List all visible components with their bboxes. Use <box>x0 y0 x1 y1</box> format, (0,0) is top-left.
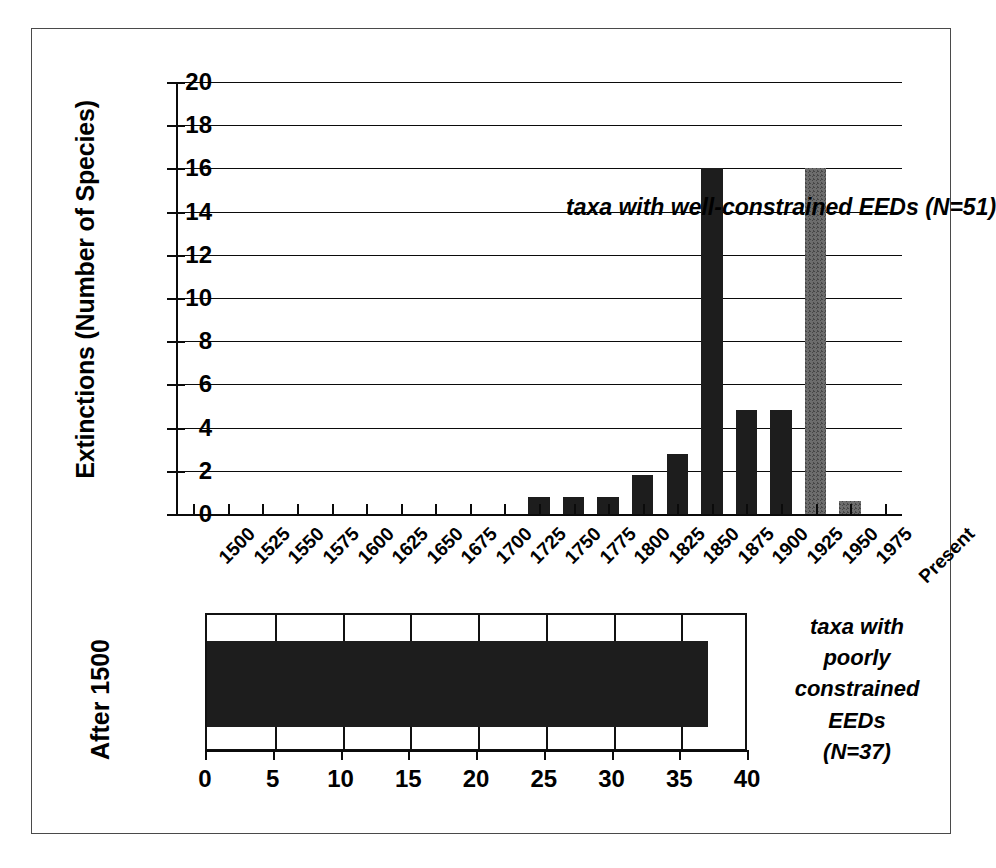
top-y-tick-label: 16 <box>132 156 212 180</box>
top-y-tick-label: 4 <box>132 416 212 440</box>
top-x-tick <box>332 504 334 515</box>
top-bar <box>736 410 757 514</box>
bottom-x-tick <box>679 750 681 760</box>
top-gridline <box>176 471 902 472</box>
top-gridline <box>176 168 902 169</box>
top-x-tick <box>816 504 818 515</box>
top-chart-annotation: taxa with well-constrained EEDs (N=51) <box>566 194 996 221</box>
top-x-tick-label: 1900 <box>768 523 813 568</box>
bottom-x-tick <box>205 750 207 760</box>
top-y-tick-label: 6 <box>132 372 212 396</box>
top-x-tick <box>746 504 748 515</box>
top-y-tick-label: 0 <box>132 502 212 526</box>
top-histogram-panel: Extinctions (Number of Species) taxa wit… <box>32 29 952 589</box>
top-x-tick <box>366 504 368 515</box>
top-x-tick-label: 1800 <box>630 523 675 568</box>
top-gridline <box>176 428 902 429</box>
top-x-tick-label: 1825 <box>664 523 709 568</box>
top-gridline <box>176 298 902 299</box>
bottom-x-tick-label: 0 <box>175 765 235 793</box>
bottom-x-tick-label: 25 <box>514 765 574 793</box>
bottom-bar-panel: After 1500 0510152025303540 taxa withpoo… <box>32 589 952 835</box>
top-y-tick-label: 8 <box>132 329 212 353</box>
top-x-tick <box>539 504 541 515</box>
bottom-plot-area <box>205 613 747 751</box>
top-x-tick <box>435 504 437 515</box>
top-x-tick-label: 1500 <box>215 523 260 568</box>
top-y-tick-label: 14 <box>132 200 212 224</box>
top-x-tick-label: 1600 <box>353 523 398 568</box>
top-x-tick-label: 1700 <box>491 523 536 568</box>
top-x-tick <box>885 504 887 515</box>
top-plot-area: taxa with well-constrained EEDs (N=51) <box>176 82 902 514</box>
top-x-tick <box>677 504 679 515</box>
bottom-x-tick-label: 35 <box>649 765 709 793</box>
bottom-x-tick <box>408 750 410 760</box>
top-x-tick-label: 1675 <box>457 523 502 568</box>
top-gridline <box>176 125 902 126</box>
bottom-annotation-line: constrained <box>769 673 945 704</box>
bottom-x-tick-label: 40 <box>717 765 777 793</box>
top-y-tick-label: 20 <box>132 70 212 94</box>
bottom-x-tick <box>544 750 546 760</box>
top-x-tick <box>401 504 403 515</box>
bottom-x-tick-label: 15 <box>378 765 438 793</box>
top-x-tick-label: 1875 <box>733 523 778 568</box>
bottom-annotation-line: taxa with <box>769 611 945 642</box>
figure-frame: Extinctions (Number of Species) taxa wit… <box>31 28 951 834</box>
bottom-x-tick <box>747 750 749 760</box>
top-gridline <box>176 341 902 342</box>
top-x-tick <box>608 504 610 515</box>
top-x-tick <box>470 504 472 515</box>
top-x-tick <box>781 504 783 515</box>
top-y-tick-label: 18 <box>132 113 212 137</box>
bottom-x-tick <box>341 750 343 760</box>
top-x-tick <box>297 504 299 515</box>
top-x-tick-label: 1650 <box>422 523 467 568</box>
top-x-tick-label: 1925 <box>802 523 847 568</box>
top-y-tick-label: 12 <box>132 243 212 267</box>
top-x-tick-label: 1775 <box>595 523 640 568</box>
bottom-annotation-line: EEDs <box>769 705 945 736</box>
top-gridline <box>176 82 902 83</box>
top-x-tick-label: 1850 <box>699 523 744 568</box>
top-gridline <box>176 255 902 256</box>
top-x-tick-label: 1725 <box>526 523 571 568</box>
bottom-x-tick-label: 5 <box>243 765 303 793</box>
top-x-tick-label: Present <box>914 523 979 588</box>
top-x-tick-label: 1575 <box>318 523 363 568</box>
bottom-x-tick-label: 20 <box>446 765 506 793</box>
top-y-axis-title: Extinctions (Number of Species) <box>71 80 100 500</box>
top-x-tick-label: 1975 <box>872 523 917 568</box>
top-x-tick <box>574 504 576 515</box>
top-x-tick <box>712 504 714 515</box>
top-x-tick-label: 1625 <box>388 523 433 568</box>
top-x-tick-label: 1750 <box>560 523 605 568</box>
bottom-x-tick <box>273 750 275 760</box>
bottom-x-tick <box>612 750 614 760</box>
top-x-tick-label: 1550 <box>284 523 329 568</box>
bottom-chart-annotation: taxa withpoorlyconstrainedEEDs(N=37) <box>769 611 945 767</box>
bottom-annotation-line: (N=37) <box>769 736 945 767</box>
bottom-x-tick-label: 10 <box>311 765 371 793</box>
top-x-tick <box>643 504 645 515</box>
top-x-tick <box>504 504 506 515</box>
top-y-tick-label: 10 <box>132 286 212 310</box>
top-x-tick <box>228 504 230 515</box>
top-x-tick <box>262 504 264 515</box>
top-x-tick-label: 1525 <box>249 523 294 568</box>
top-bar <box>770 410 791 514</box>
bottom-annotation-line: poorly <box>769 642 945 673</box>
top-gridline <box>176 384 902 385</box>
top-x-tick <box>850 504 852 515</box>
bottom-x-tick-label: 30 <box>582 765 642 793</box>
top-y-tick-label: 2 <box>132 459 212 483</box>
bottom-x-tick <box>476 750 478 760</box>
bottom-y-axis-title: After 1500 <box>86 610 115 790</box>
bottom-bar <box>207 641 708 727</box>
top-x-tick-label: 1950 <box>837 523 882 568</box>
